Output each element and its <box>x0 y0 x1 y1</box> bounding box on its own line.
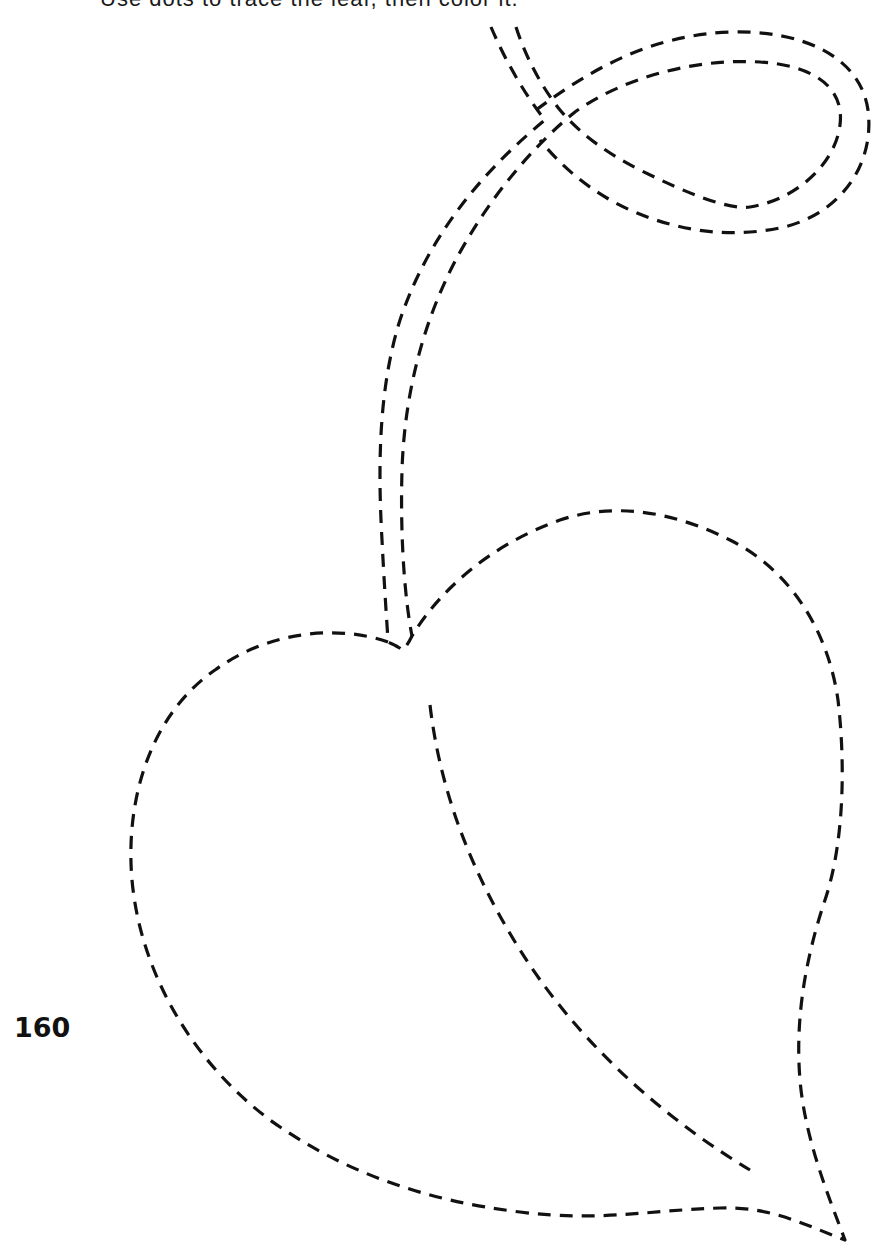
stem-loop <box>536 32 869 233</box>
stem-outer-line <box>380 27 545 640</box>
page-number: 160 <box>14 1012 70 1043</box>
worksheet-page: Use dots to trace the leaf, then color i… <box>0 0 890 1260</box>
leaf-midrib <box>430 705 750 1170</box>
stem-inner-line <box>402 27 841 636</box>
leaf-outline <box>131 511 845 1240</box>
leaf-tracing-illustration <box>0 0 890 1260</box>
